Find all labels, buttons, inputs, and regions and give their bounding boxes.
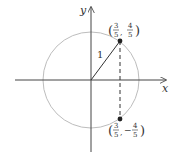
unit-circle-diagram: y x 1 ( 3 5 , 4 5 ) ( 3 5 , − 4 5 ) xyxy=(0,0,182,156)
radius-segment xyxy=(91,41,120,80)
svg-text:3: 3 xyxy=(114,22,118,30)
svg-text:4: 4 xyxy=(133,122,138,130)
radius-label: 1 xyxy=(97,49,103,60)
svg-text:,: , xyxy=(120,128,123,137)
svg-text:5: 5 xyxy=(114,131,118,139)
svg-text:,: , xyxy=(120,28,123,37)
svg-text:5: 5 xyxy=(114,31,118,39)
lower-point-label: ( 3 5 , − 4 5 ) xyxy=(108,122,145,139)
svg-text:−: − xyxy=(124,125,132,135)
x-axis-label: x xyxy=(162,82,169,95)
svg-text:(: ( xyxy=(108,123,113,138)
svg-text:3: 3 xyxy=(114,122,118,130)
y-axis-label: y xyxy=(79,4,87,17)
svg-text:4: 4 xyxy=(128,22,133,30)
svg-text:5: 5 xyxy=(133,131,137,139)
point-lower xyxy=(118,117,123,122)
point-upper xyxy=(118,39,123,44)
upper-point-label: ( 3 5 , 4 5 ) xyxy=(108,22,140,39)
svg-text:5: 5 xyxy=(128,31,132,39)
svg-text:(: ( xyxy=(108,23,113,38)
svg-text:): ) xyxy=(135,23,140,38)
svg-text:): ) xyxy=(140,123,145,138)
